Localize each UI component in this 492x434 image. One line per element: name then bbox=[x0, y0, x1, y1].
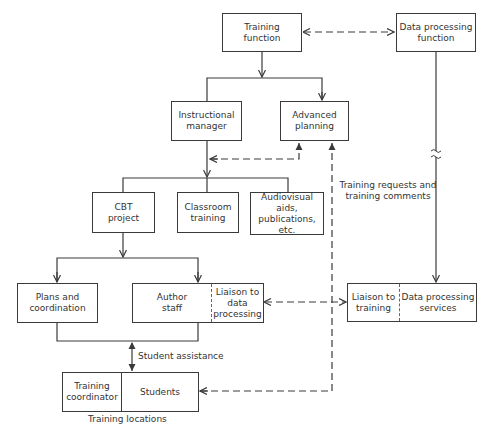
node-liaison-to-data-processing: Liaison to data processing bbox=[211, 284, 263, 322]
connector-layer bbox=[0, 0, 492, 434]
node-label: CBT project bbox=[108, 202, 139, 224]
node-training-location-group: Training coordinator Students bbox=[62, 372, 199, 412]
label-training-locations: Training locations bbox=[88, 414, 167, 425]
edge-branch-top bbox=[207, 78, 322, 101]
node-author-staff-group: Author staff Liaison to data processing bbox=[132, 283, 264, 323]
node-label: Classroom training bbox=[185, 202, 232, 224]
node-students: Students bbox=[121, 373, 198, 411]
node-label: Advanced planning bbox=[292, 110, 336, 132]
node-label: Data processing function bbox=[400, 22, 473, 44]
node-advanced-planning: Advanced planning bbox=[280, 101, 349, 141]
node-label: Audiovisual aids, publications, etc. bbox=[251, 192, 323, 236]
node-liaison-to-training: Liaison to training bbox=[348, 284, 399, 321]
node-label: Plans and coordination bbox=[29, 292, 85, 314]
node-plans-coordination: Plans and coordination bbox=[17, 283, 98, 323]
break-mark bbox=[431, 150, 441, 159]
node-training-coordinator: Training coordinator bbox=[63, 373, 121, 411]
node-cbt-project: CBT project bbox=[92, 192, 155, 233]
node-label: Author staff bbox=[157, 292, 187, 314]
edge-im-ap-dashed bbox=[210, 143, 299, 159]
node-classroom-training: Classroom training bbox=[177, 192, 239, 233]
node-data-processing-services: Data processing services bbox=[399, 284, 476, 321]
node-label: Data processing services bbox=[402, 292, 475, 314]
node-instructional-manager: Instructional manager bbox=[171, 101, 242, 141]
node-training-function: Training function bbox=[222, 13, 302, 52]
node-label: Liaison to data processing bbox=[213, 287, 262, 320]
node-label: Training coordinator bbox=[66, 381, 118, 403]
node-label: Training function bbox=[244, 22, 281, 44]
node-author-staff: Author staff bbox=[133, 284, 211, 322]
label-student-assistance: Student assistance bbox=[138, 351, 224, 362]
edge-branch-lower bbox=[57, 258, 198, 282]
node-label: Liaison to training bbox=[352, 292, 395, 314]
node-label: Students bbox=[140, 387, 180, 398]
node-audiovisual: Audiovisual aids, publications, etc. bbox=[250, 192, 324, 235]
edge-branch-bottom bbox=[57, 323, 198, 341]
node-liaison-services-group: Liaison to training Data processing serv… bbox=[347, 283, 477, 322]
label-training-requests: Training requests and training comments bbox=[338, 180, 438, 202]
node-data-processing-function: Data processing function bbox=[396, 13, 476, 52]
node-label: Instructional manager bbox=[178, 110, 234, 132]
edge-branch-middle bbox=[123, 178, 288, 192]
